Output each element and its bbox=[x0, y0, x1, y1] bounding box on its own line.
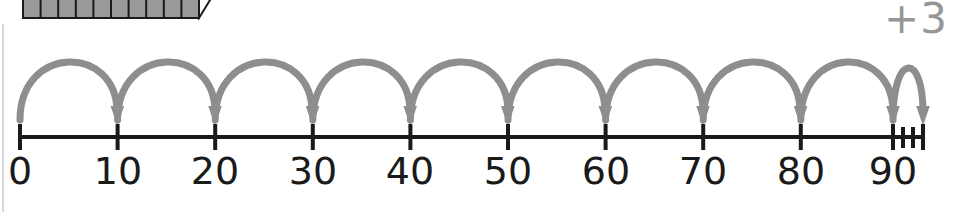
arrowhead-30 bbox=[306, 106, 320, 126]
axis bbox=[20, 124, 923, 150]
arrowhead-40 bbox=[403, 106, 417, 126]
tick-label-0: 0 bbox=[8, 152, 32, 190]
hop-arrowheads bbox=[111, 106, 930, 126]
tick-label-90: 90 bbox=[869, 152, 917, 190]
arrowhead-70 bbox=[696, 106, 710, 126]
arrowhead-93 bbox=[916, 106, 930, 126]
hop-arc-10-20 bbox=[118, 62, 215, 120]
tick-label-30: 30 bbox=[289, 152, 337, 190]
arrowhead-50 bbox=[501, 106, 515, 126]
hop-arc-80-90 bbox=[801, 62, 893, 120]
hop-arc-20-30 bbox=[215, 62, 312, 120]
arrowhead-10 bbox=[111, 106, 125, 126]
tick-label-60: 60 bbox=[582, 152, 630, 190]
arrowhead-60 bbox=[599, 106, 613, 126]
hop-arc-70-80 bbox=[703, 62, 800, 120]
arrowhead-20 bbox=[208, 106, 222, 126]
hop-arcs bbox=[20, 62, 923, 120]
tick-label-50: 50 bbox=[484, 152, 532, 190]
tick-label-80: 80 bbox=[777, 152, 825, 190]
tick-label-40: 40 bbox=[386, 152, 434, 190]
tick-label-70: 70 bbox=[679, 152, 727, 190]
tick-label-20: 20 bbox=[191, 152, 239, 190]
worksheet-page: +3 bbox=[0, 0, 958, 220]
arrowhead-90 bbox=[886, 106, 900, 126]
hop-arc-40-50 bbox=[410, 62, 508, 120]
hop-arc-0-10 bbox=[20, 62, 117, 120]
hop-arc-60-70 bbox=[606, 62, 703, 120]
hop-arc-30-40 bbox=[313, 62, 410, 120]
arrowhead-80 bbox=[794, 106, 808, 126]
hop-arc-50-60 bbox=[508, 62, 605, 120]
tick-label-10: 10 bbox=[94, 152, 142, 190]
